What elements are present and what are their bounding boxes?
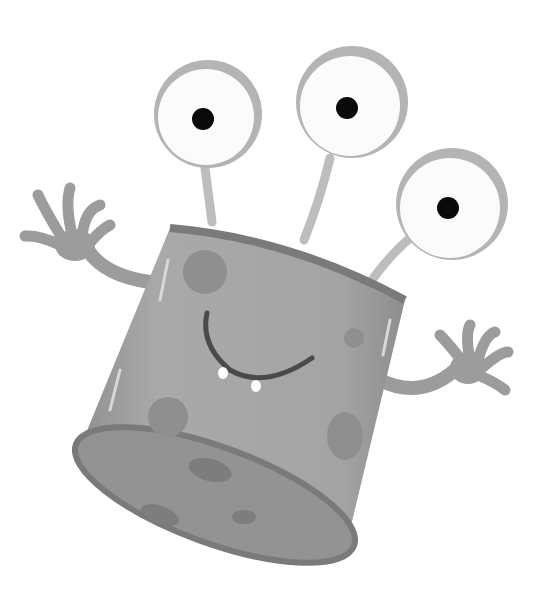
spot <box>327 412 363 460</box>
spot <box>344 328 364 348</box>
eye-right <box>396 148 508 260</box>
spot <box>232 510 256 524</box>
eye-left <box>154 60 262 168</box>
left-arm <box>25 188 150 282</box>
pupil <box>437 197 459 219</box>
pupil <box>192 108 214 130</box>
tooth <box>218 367 228 379</box>
monster-body <box>60 228 405 591</box>
spot <box>148 397 188 437</box>
eye-middle <box>296 46 408 158</box>
spot <box>183 250 227 294</box>
right-arm <box>380 325 508 390</box>
pupil <box>336 97 358 119</box>
tooth <box>251 380 261 392</box>
monster-illustration <box>0 0 539 594</box>
